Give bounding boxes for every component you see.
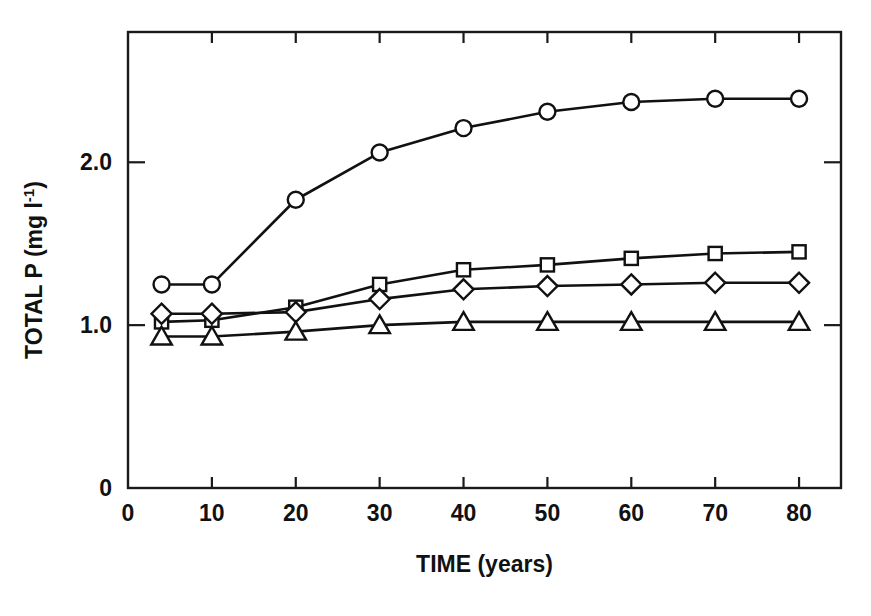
x-axis-tick-label: 70 (702, 500, 728, 526)
data-point-square (792, 245, 805, 258)
data-point-square (625, 252, 638, 265)
data-point-circle (204, 276, 220, 292)
data-point-square (709, 247, 722, 260)
x-axis-tick-label: 40 (451, 500, 477, 526)
y-axis-tick-label: 2.0 (80, 149, 112, 175)
data-point-diamond (789, 273, 809, 293)
x-axis-tick-label: 50 (535, 500, 561, 526)
total-p-vs-time-line-chart: 0102030405060708001.02.0TIME (years)TOTA… (0, 0, 871, 616)
figure-container: 0102030405060708001.02.0TIME (years)TOTA… (0, 0, 871, 616)
series-line-triangle (162, 322, 800, 337)
series-square (162, 252, 800, 322)
series-circle (162, 99, 800, 285)
data-point-circle (791, 91, 807, 107)
series-markers-circle (154, 91, 808, 293)
x-axis-tick-label: 80 (786, 500, 812, 526)
series-line-diamond (162, 283, 800, 314)
series-markers-triangle (151, 312, 809, 344)
data-point-circle (623, 94, 639, 110)
x-axis-tick-label: 60 (618, 500, 644, 526)
data-point-square (457, 263, 470, 276)
data-point-circle (154, 276, 170, 292)
y-axis-title: TOTAL P (mg l-1) (20, 181, 48, 359)
series-line-square (162, 252, 800, 322)
series-line-circle (162, 99, 800, 285)
x-axis-tick-label: 10 (199, 500, 225, 526)
y-axis-tick-label: 1.0 (80, 312, 112, 338)
x-axis-tick-label: 20 (283, 500, 309, 526)
x-axis-title: TIME (years) (416, 551, 553, 577)
series-triangle (162, 322, 800, 337)
data-point-circle (707, 91, 723, 107)
data-point-square (541, 258, 554, 271)
data-point-diamond (453, 279, 473, 299)
data-point-diamond (621, 274, 641, 294)
y-axis-tick-label: 0 (99, 475, 112, 501)
data-point-circle (288, 192, 304, 208)
data-point-circle (456, 120, 472, 136)
data-point-circle (539, 104, 555, 120)
series-diamond (162, 283, 800, 314)
series-markers-diamond (152, 273, 810, 324)
x-axis-tick-label: 0 (122, 500, 135, 526)
x-axis-tick-label: 30 (367, 500, 393, 526)
data-point-diamond (537, 276, 557, 296)
data-point-circle (372, 145, 388, 161)
data-point-diamond (705, 273, 725, 293)
